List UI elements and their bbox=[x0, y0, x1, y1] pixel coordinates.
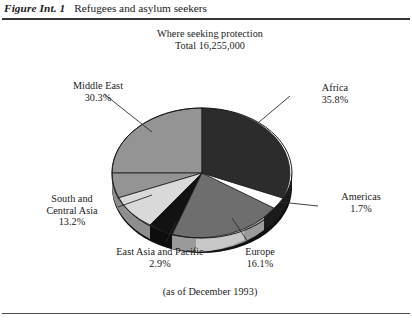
figure-label: Figure Int. 1 bbox=[4, 2, 65, 14]
slice-label-south-central-asia-value: 13.2% bbox=[20, 216, 124, 228]
chart-footnote: (as of December 1993) bbox=[128, 286, 292, 298]
slice-label-east-asia-pacific: East Asia and Pacific 2.9% bbox=[95, 246, 225, 269]
slice-label-africa: Africa 35.8% bbox=[292, 82, 378, 105]
slice-label-europe-value: 16.1% bbox=[222, 258, 298, 270]
figure-divider-bottom bbox=[2, 313, 410, 314]
chart-subtitle-line1: Where seeking protection bbox=[128, 28, 292, 40]
slice-label-americas-name: Americas bbox=[320, 191, 402, 203]
slice-label-middle-east-name: Middle East bbox=[48, 80, 148, 92]
chart-subtitle-total: Total 16,255,000 bbox=[128, 40, 292, 52]
slice-label-europe: Europe 16.1% bbox=[222, 246, 298, 269]
slice-label-south-central-asia-name2: Central Asia bbox=[20, 205, 124, 217]
slice-label-americas-value: 1.7% bbox=[320, 203, 402, 215]
slice-label-south-central-asia-name: South and bbox=[20, 193, 124, 205]
slice-label-east-asia-pacific-value: 2.9% bbox=[95, 258, 225, 270]
leader-line-africa bbox=[252, 96, 290, 128]
slice-label-europe-name: Europe bbox=[222, 246, 298, 258]
figure-title: Refugees and asylum seekers bbox=[74, 2, 207, 14]
pie-slice-middle-east bbox=[112, 108, 202, 173]
chart-footnote-text: (as of December 1993) bbox=[128, 286, 292, 298]
chart-subtitle: Where seeking protection Total 16,255,00… bbox=[128, 28, 292, 51]
slice-label-south-central-asia: South and Central Asia 13.2% bbox=[20, 193, 124, 228]
figure-container: Figure Int. 1Refugees and asylum seekers bbox=[0, 0, 412, 322]
slice-label-africa-value: 35.8% bbox=[292, 94, 378, 106]
slice-label-east-asia-pacific-name: East Asia and Pacific bbox=[95, 246, 225, 258]
slice-label-americas: Americas 1.7% bbox=[320, 191, 402, 214]
slice-label-middle-east: Middle East 30.3% bbox=[48, 80, 148, 103]
slice-label-middle-east-value: 30.3% bbox=[48, 92, 148, 104]
figure-caption: Figure Int. 1Refugees and asylum seekers bbox=[4, 1, 408, 17]
slice-label-africa-name: Africa bbox=[292, 82, 378, 94]
pie-chart: Where seeking protection Total 16,255,00… bbox=[0, 20, 412, 312]
